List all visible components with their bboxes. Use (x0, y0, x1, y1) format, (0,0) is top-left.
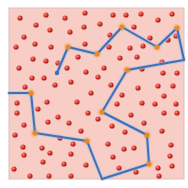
dot[interactable] (140, 43, 145, 48)
dot[interactable] (159, 128, 164, 133)
dot[interactable] (66, 120, 71, 125)
visited-dot[interactable] (28, 90, 33, 95)
dot[interactable] (13, 44, 18, 49)
dot[interactable] (109, 123, 114, 128)
dot[interactable] (174, 110, 179, 115)
dot[interactable] (82, 10, 87, 15)
dot[interactable] (70, 141, 75, 146)
dot[interactable] (35, 106, 40, 111)
dot[interactable] (11, 166, 16, 171)
dot[interactable] (83, 69, 88, 74)
dot[interactable] (47, 150, 52, 155)
visited-dot[interactable] (174, 25, 179, 30)
visited-dot[interactable] (32, 130, 37, 135)
dot[interactable] (85, 110, 90, 115)
visited-dot[interactable] (144, 132, 149, 137)
dot[interactable] (114, 101, 119, 106)
dot[interactable] (12, 132, 17, 137)
dot[interactable] (21, 152, 26, 157)
dot[interactable] (82, 41, 87, 46)
dot[interactable] (128, 112, 133, 117)
dot[interactable] (61, 161, 66, 166)
dot[interactable] (52, 82, 57, 87)
dot[interactable] (33, 22, 38, 27)
dot[interactable] (40, 159, 45, 164)
dot[interactable] (117, 55, 122, 60)
dot[interactable] (20, 144, 25, 149)
dot[interactable] (21, 122, 26, 127)
dot[interactable] (41, 75, 46, 80)
dot[interactable] (68, 151, 73, 156)
visited-dot[interactable] (99, 109, 104, 114)
dot[interactable] (131, 145, 136, 150)
dot[interactable] (122, 129, 127, 134)
visited-dot[interactable] (94, 51, 99, 56)
dot[interactable] (119, 92, 124, 97)
dot[interactable] (45, 119, 50, 124)
dot[interactable] (55, 114, 60, 119)
visited-dot[interactable] (154, 44, 159, 49)
dot[interactable] (22, 84, 27, 89)
dot[interactable] (95, 74, 100, 79)
dot[interactable] (123, 12, 128, 17)
visited-dot[interactable] (65, 44, 70, 49)
dot[interactable] (161, 93, 166, 98)
dot[interactable] (110, 154, 115, 159)
dot[interactable] (43, 58, 48, 63)
dot[interactable] (127, 45, 132, 50)
dot[interactable] (170, 83, 175, 88)
dot[interactable] (62, 15, 67, 20)
dot[interactable] (152, 101, 157, 106)
dot[interactable] (46, 173, 51, 178)
dot[interactable] (17, 15, 22, 20)
dot[interactable] (74, 99, 79, 104)
dot[interactable] (155, 17, 160, 22)
dot[interactable] (27, 173, 32, 178)
dot[interactable] (116, 165, 121, 170)
dot[interactable] (30, 56, 35, 61)
dot[interactable] (168, 142, 173, 147)
visited-dot[interactable] (124, 67, 129, 72)
dot[interactable] (16, 65, 21, 70)
dot[interactable] (169, 11, 174, 16)
dot[interactable] (14, 100, 19, 105)
path-end-cursor[interactable] (55, 71, 59, 75)
dot[interactable] (155, 165, 160, 170)
visited-dot[interactable] (119, 24, 124, 29)
dot[interactable] (14, 110, 19, 115)
dot[interactable] (155, 83, 160, 88)
dot[interactable] (64, 65, 69, 70)
dot[interactable] (167, 153, 172, 158)
dot[interactable] (67, 29, 72, 34)
dot[interactable] (32, 41, 37, 46)
dot[interactable] (29, 75, 34, 80)
dot[interactable] (68, 173, 73, 178)
dot[interactable] (173, 101, 178, 106)
dot[interactable] (75, 54, 80, 59)
dot[interactable] (48, 44, 53, 49)
dot[interactable] (78, 128, 83, 133)
dot[interactable] (39, 145, 44, 150)
dot[interactable] (81, 24, 86, 29)
dot[interactable] (97, 21, 102, 26)
dot[interactable] (68, 79, 73, 84)
dot[interactable] (95, 116, 100, 121)
dot[interactable] (83, 162, 88, 167)
dot[interactable] (43, 12, 48, 17)
dot[interactable] (174, 70, 179, 75)
dot[interactable] (139, 100, 144, 105)
dot[interactable] (108, 82, 113, 87)
dot[interactable] (138, 11, 143, 16)
dot[interactable] (21, 34, 26, 39)
dot[interactable] (131, 24, 136, 29)
dot[interactable] (44, 99, 49, 104)
visited-dot[interactable] (146, 161, 151, 166)
dot[interactable] (101, 65, 106, 70)
dot[interactable] (135, 85, 140, 90)
dot[interactable] (134, 54, 139, 59)
dot[interactable] (160, 70, 165, 75)
dot[interactable] (169, 163, 174, 168)
dot[interactable] (47, 27, 52, 32)
dot[interactable] (156, 173, 161, 178)
dot[interactable] (161, 110, 166, 115)
